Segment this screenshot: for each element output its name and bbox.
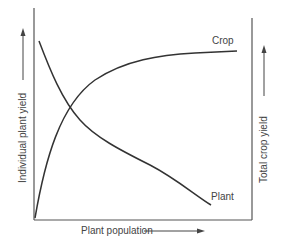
bottom-arrow-head-icon [197,229,205,234]
crop-label: Crop [212,35,234,46]
plant-label: Plant [211,191,234,202]
right-arrow-head-icon [262,45,267,53]
y-left-axis-label: Individual plant yield [17,93,28,183]
chart-canvas [0,0,282,247]
crop-curve [35,51,237,218]
y-right-axis-label: Total crop yield [258,116,269,183]
left-arrow-head-icon [21,28,26,36]
x-axis-label: Plant population [81,225,153,236]
